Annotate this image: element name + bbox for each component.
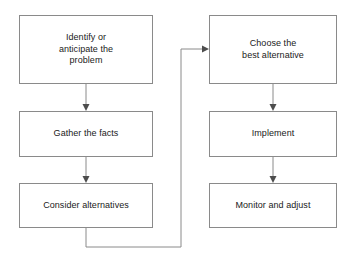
connector-implement-to-monitor bbox=[270, 157, 277, 183]
node-consider-alternatives[interactable]: Consider alternatives bbox=[19, 183, 153, 228]
node-implement[interactable]: Implement bbox=[209, 111, 337, 157]
node-choose-the-best-alternative[interactable]: Choose the best alternative bbox=[209, 15, 337, 84]
node-label: Identify or anticipate the problem bbox=[55, 32, 117, 67]
flowchart-canvas: Identify or anticipate the problem Gathe… bbox=[0, 0, 357, 257]
node-gather-the-facts[interactable]: Gather the facts bbox=[19, 111, 153, 157]
connector-identify-to-gather bbox=[83, 84, 90, 111]
connector-choose-to-implement bbox=[270, 84, 277, 111]
node-label: Choose the best alternative bbox=[238, 38, 308, 61]
node-label: Monitor and adjust bbox=[232, 200, 315, 212]
node-identify-or-anticipate-the-problem[interactable]: Identify or anticipate the problem bbox=[19, 15, 153, 84]
node-label: Consider alternatives bbox=[39, 200, 133, 212]
node-label: Implement bbox=[248, 128, 298, 140]
connector-gather-to-consider bbox=[83, 157, 90, 183]
node-label: Gather the facts bbox=[50, 128, 123, 140]
node-monitor-and-adjust[interactable]: Monitor and adjust bbox=[209, 183, 337, 228]
